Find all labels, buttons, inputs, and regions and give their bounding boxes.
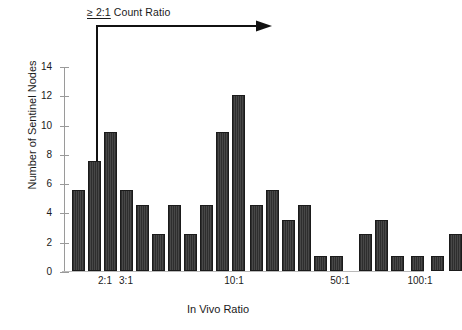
histogram-bar xyxy=(431,256,444,271)
histogram-bar xyxy=(88,161,101,271)
histogram-bar xyxy=(359,234,372,271)
x-tick-label: 3:1 xyxy=(119,275,133,286)
histogram-bar xyxy=(168,205,181,271)
x-tick-label: 100:1 xyxy=(407,275,432,286)
y-tick-mark xyxy=(60,272,69,273)
histogram-bar xyxy=(449,234,462,271)
y-tick-label: 4 xyxy=(26,208,52,218)
histogram-bar xyxy=(152,234,165,271)
histogram-bar xyxy=(200,205,213,271)
bar-series xyxy=(64,66,424,272)
histogram-bar xyxy=(266,190,279,271)
count-ratio-annotation-label: ≥ 2:1 Count Ratio xyxy=(87,6,170,18)
y-tick-label: 12 xyxy=(26,91,52,101)
histogram-bar xyxy=(72,190,85,271)
y-tick-label: 6 xyxy=(26,179,52,189)
y-tick-label: 14 xyxy=(26,62,52,72)
histogram-bar xyxy=(104,132,117,271)
right-arrow-icon xyxy=(84,20,274,34)
y-tick-label: 2 xyxy=(26,238,52,248)
y-tick-label: 10 xyxy=(26,121,52,131)
histogram-bar xyxy=(136,205,149,271)
x-tick-label: 10:1 xyxy=(224,275,243,286)
histogram-bar xyxy=(120,190,133,271)
histogram-bar xyxy=(232,95,245,271)
y-tick-label: 0 xyxy=(26,267,52,277)
y-tick-label: 8 xyxy=(26,150,52,160)
histogram-bar xyxy=(330,256,343,271)
histogram-bar xyxy=(250,205,263,271)
histogram-bar xyxy=(282,220,295,271)
histogram-bar xyxy=(375,220,388,271)
histogram-bar xyxy=(391,256,404,271)
histogram-bar xyxy=(184,234,197,271)
histogram-bar xyxy=(411,256,424,271)
x-tick-label: 2:1 xyxy=(98,275,112,286)
histogram-bar xyxy=(298,205,311,271)
plot-area: 02468101214 2:13:110:150:1100:1 xyxy=(64,66,424,273)
x-tick-label: 50:1 xyxy=(330,275,349,286)
histogram-bar xyxy=(314,256,327,271)
x-axis-title: In Vivo Ratio xyxy=(0,303,436,315)
annotation-ge-symbol: ≥ 2:1 xyxy=(87,6,111,18)
histogram-bar xyxy=(216,132,229,271)
cutoff-caption xyxy=(0,320,436,330)
annotation-rest-text: Count Ratio xyxy=(111,6,171,18)
